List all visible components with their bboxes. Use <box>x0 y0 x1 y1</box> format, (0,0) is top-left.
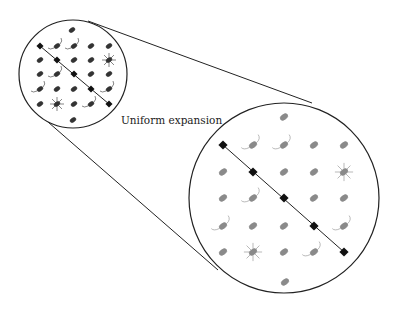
diagram-canvas <box>0 0 395 312</box>
uniform-expansion-label: Uniform expansion <box>121 114 222 126</box>
galaxy-icon <box>335 163 353 181</box>
expansion-diagram: Uniform expansion <box>0 0 395 312</box>
galaxy-icon <box>50 97 64 111</box>
large-view <box>189 103 379 293</box>
galaxy-icon <box>244 243 262 261</box>
galaxy-icon <box>102 53 116 67</box>
small-view <box>19 20 127 128</box>
